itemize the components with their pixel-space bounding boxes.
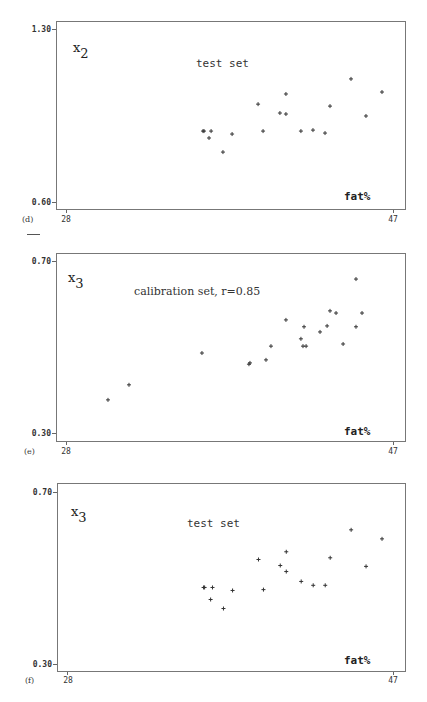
plus-marker (210, 585, 214, 589)
plus-marker (323, 583, 327, 587)
plus-marker (364, 564, 368, 568)
plus-marker (264, 358, 268, 362)
plus-marker (349, 77, 353, 81)
plus-marker (284, 112, 288, 116)
plus-marker (323, 131, 327, 135)
panel-label: (e) (24, 447, 35, 456)
x-axis-label: fat% (344, 654, 371, 667)
plus-marker (278, 564, 282, 568)
plus-marker (106, 398, 110, 402)
figure: 1.30 0.60 (d) 28 47 x2 test set fat% 0.7… (0, 0, 427, 702)
y-tick-label-top: 1.30 (32, 25, 51, 34)
x-tick-label-left: 28 (63, 676, 73, 685)
plus-marker (354, 325, 358, 329)
plus-marker (311, 128, 315, 132)
y-tick-label-bottom: 0.30 (33, 660, 52, 669)
plus-marker (209, 129, 213, 133)
y-tick-label-bottom: 0.30 (32, 429, 51, 438)
plus-marker (256, 558, 260, 562)
chart-title: test set (187, 517, 240, 530)
plus-marker (261, 129, 265, 133)
plus-marker (284, 570, 288, 574)
y-tick-label-top: 0.70 (33, 488, 52, 497)
data-points (202, 528, 384, 611)
plus-marker (221, 607, 225, 611)
y-tick-label-bottom: 0.60 (32, 198, 51, 207)
y-axis-label: x2 (73, 40, 89, 61)
plus-marker (354, 277, 358, 281)
plus-marker (207, 136, 211, 140)
plus-marker (302, 325, 306, 329)
x-tick-label-left: 28 (61, 447, 71, 456)
scatter-panel-d: 1.30 0.60 (d) 28 47 x2 test set fat% (22, 22, 406, 225)
x-axis-label: fat% (344, 425, 371, 438)
plus-marker (328, 309, 332, 313)
plot-frame (57, 254, 406, 442)
plus-marker (209, 598, 213, 602)
plus-marker (364, 114, 368, 118)
scatter-panel-f: 0.70 0.30 (f) 28 47 x3 test set fat% (25, 484, 406, 686)
plus-marker (334, 311, 338, 315)
plus-marker (380, 90, 384, 94)
plus-marker (349, 528, 353, 532)
plus-marker (261, 588, 265, 592)
plus-marker (299, 579, 303, 583)
plus-marker (231, 588, 235, 592)
plus-marker (269, 344, 273, 348)
plus-marker (200, 351, 204, 355)
plus-marker (304, 344, 308, 348)
data-points (201, 77, 384, 154)
plus-marker (311, 583, 315, 587)
plus-marker (284, 92, 288, 96)
x-tick-label-right: 47 (388, 447, 398, 456)
plot-frame (57, 22, 406, 210)
y-axis-label: x3 (71, 504, 87, 525)
plus-marker (127, 383, 131, 387)
y-axis-label: x3 (68, 270, 84, 291)
x-tick-label-left: 28 (61, 215, 71, 224)
x-axis-label: fat% (344, 190, 371, 203)
plus-marker (318, 330, 322, 334)
chart-title: test set (196, 57, 249, 70)
plus-marker (256, 102, 260, 106)
plus-marker (284, 318, 288, 322)
x-tick-label-right: 47 (388, 676, 398, 685)
panel-label: (d) (22, 215, 33, 224)
plus-marker (328, 104, 332, 108)
scatter-panel-e: 0.70 0.30 (e) 28 47 x3 calibration set, … (24, 254, 406, 457)
plus-marker (380, 537, 384, 541)
plus-marker (299, 337, 303, 341)
y-tick-label-top: 0.70 (32, 257, 51, 266)
plus-marker (328, 556, 332, 560)
plus-marker (284, 550, 288, 554)
plot-frame (58, 484, 406, 672)
x-tick-label-right: 47 (388, 215, 398, 224)
plus-marker (221, 150, 225, 154)
plus-marker (230, 132, 234, 136)
chart-title: calibration set, r=0.85 (134, 285, 260, 298)
plus-marker (325, 324, 329, 328)
plus-marker (360, 311, 364, 315)
panel-label: (f) (25, 676, 34, 685)
plus-marker (341, 342, 345, 346)
plus-marker (278, 111, 282, 115)
plus-marker (299, 129, 303, 133)
